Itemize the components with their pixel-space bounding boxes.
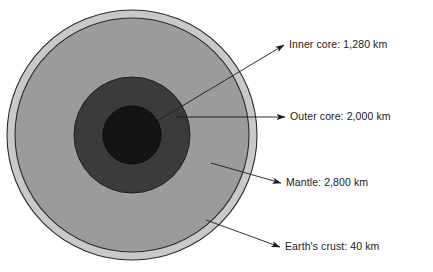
callout-label-mantle: Mantle: 2,800 km (286, 176, 368, 188)
callout-label-crust: Earth's crust: 40 km (285, 240, 380, 252)
callout-label-outer-core: Outer core: 2,000 km (290, 110, 391, 122)
earth-cross-section-diagram: Inner core: 1,280 km Outer core: 2,000 k… (0, 0, 433, 272)
callout-label-inner-core: Inner core: 1,280 km (289, 38, 387, 50)
layer-inner-core (103, 106, 161, 164)
earth-diagram-svg: Inner core: 1,280 km Outer core: 2,000 k… (0, 0, 433, 272)
leader-line-crust (206, 220, 280, 247)
